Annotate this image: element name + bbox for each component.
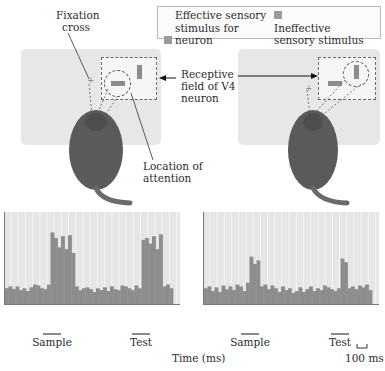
histogram-bin bbox=[47, 285, 51, 305]
histogram-bin bbox=[12, 289, 16, 305]
histogram-bin bbox=[65, 249, 69, 305]
histogram-bin bbox=[131, 290, 135, 305]
histogram-bin bbox=[121, 285, 125, 305]
histogram-bin bbox=[341, 259, 345, 306]
histogram-bin bbox=[323, 285, 327, 305]
annotation-lines bbox=[0, 0, 385, 371]
right-test-bar bbox=[331, 333, 349, 335]
histogram-bin bbox=[124, 286, 128, 305]
right-sample-label: Sample bbox=[228, 336, 272, 348]
histogram-bin bbox=[5, 288, 9, 305]
histogram-bin bbox=[271, 285, 275, 305]
histogram-bin bbox=[358, 285, 362, 305]
histogram-bin bbox=[278, 292, 282, 305]
histogram-bin bbox=[68, 235, 72, 305]
histogram-bin bbox=[232, 290, 236, 305]
histogram-bin bbox=[225, 289, 229, 305]
histogram-bin bbox=[33, 285, 37, 305]
scale-bar-label: 100 ms bbox=[345, 352, 385, 364]
histogram-bin bbox=[79, 290, 83, 305]
histogram-bin bbox=[163, 286, 167, 305]
histogram-bin bbox=[204, 288, 208, 305]
left-monkey-icon bbox=[69, 110, 130, 203]
histogram-bin bbox=[334, 291, 338, 305]
left-sample-label: Sample bbox=[30, 336, 74, 348]
right-histogram bbox=[203, 212, 379, 305]
histogram-bin bbox=[44, 289, 48, 305]
histogram-bin bbox=[327, 287, 331, 305]
histogram-bin bbox=[159, 234, 163, 305]
histogram-bin bbox=[302, 292, 306, 305]
histogram-bin bbox=[149, 244, 153, 305]
histogram-bin bbox=[355, 289, 359, 305]
histogram-bin bbox=[9, 286, 13, 305]
x-axis-label: Time (ms) bbox=[172, 352, 232, 364]
histogram-bin bbox=[110, 286, 114, 305]
histogram-bin bbox=[274, 288, 278, 305]
histogram-bin bbox=[103, 287, 107, 305]
histogram-bin bbox=[75, 286, 79, 305]
histogram-bin bbox=[107, 291, 111, 305]
histogram-bin bbox=[250, 257, 254, 305]
histogram-bin bbox=[351, 286, 355, 305]
right-sample-bar bbox=[241, 333, 259, 335]
histogram-bin bbox=[362, 287, 366, 305]
histogram-bin bbox=[218, 292, 222, 305]
histogram-bin bbox=[54, 238, 58, 305]
histogram-bin bbox=[369, 290, 373, 305]
histogram-bin bbox=[239, 286, 243, 305]
histogram-bin bbox=[145, 238, 149, 305]
receptive-field-label: Receptive field of V4 neuron bbox=[181, 68, 241, 104]
histogram-bin bbox=[288, 288, 292, 305]
histogram-bin bbox=[19, 290, 23, 305]
histogram-bin bbox=[135, 285, 139, 305]
histogram-bin bbox=[253, 264, 257, 305]
histogram-bin bbox=[128, 288, 132, 305]
histogram-bin bbox=[93, 292, 97, 305]
histogram-bin bbox=[222, 285, 226, 305]
histogram-bin bbox=[117, 290, 121, 305]
histogram-bin bbox=[243, 291, 247, 305]
histogram-bin bbox=[316, 288, 320, 305]
histogram-bin bbox=[285, 290, 289, 305]
histogram-bin bbox=[330, 289, 334, 305]
histogram-bin bbox=[61, 236, 65, 305]
histogram-bin bbox=[299, 287, 303, 305]
histogram-bin bbox=[260, 286, 264, 305]
histogram-bin bbox=[82, 288, 86, 305]
histogram-bin bbox=[16, 286, 20, 305]
histogram-bin bbox=[170, 288, 174, 305]
right-test-label: Test bbox=[324, 336, 356, 348]
histogram-bin bbox=[306, 289, 310, 305]
histogram-bin bbox=[267, 289, 271, 305]
histogram-bin bbox=[264, 285, 268, 305]
right-monkey-icon bbox=[288, 110, 347, 203]
histogram-bin bbox=[40, 288, 44, 305]
left-test-label: Test bbox=[125, 336, 157, 348]
histogram-bin bbox=[152, 236, 156, 305]
histogram-bin bbox=[292, 293, 296, 305]
histogram-bin bbox=[30, 287, 34, 305]
histogram-bin bbox=[257, 260, 261, 305]
histogram-bin bbox=[51, 232, 55, 305]
histogram-bin bbox=[337, 288, 341, 305]
scale-bar-icon bbox=[356, 344, 368, 350]
histogram-bin bbox=[114, 289, 118, 305]
histogram-bin bbox=[236, 285, 240, 305]
histogram-bin bbox=[72, 253, 76, 305]
histogram-bin bbox=[246, 283, 250, 305]
histogram-bin bbox=[313, 291, 317, 305]
histogram-bin bbox=[320, 290, 324, 305]
histogram-bin bbox=[89, 289, 93, 305]
histogram-bin bbox=[142, 240, 146, 305]
histogram-bin bbox=[156, 249, 160, 305]
histogram-bin bbox=[281, 286, 285, 305]
histogram-bin bbox=[309, 286, 313, 305]
histogram-bin bbox=[208, 286, 212, 305]
histogram-bin bbox=[344, 262, 348, 305]
histogram-bin bbox=[26, 291, 30, 305]
left-test-bar bbox=[132, 333, 150, 335]
histogram-bin bbox=[23, 288, 27, 305]
histogram-bin bbox=[215, 287, 219, 305]
location-of-attention-label: Location of attention bbox=[143, 160, 203, 184]
